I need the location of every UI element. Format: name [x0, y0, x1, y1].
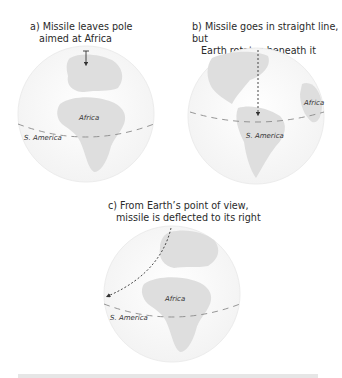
label-s-america-c: S. America	[110, 314, 148, 322]
label-s-america-b: S. America	[246, 132, 284, 140]
cutoff-caption-remnant	[18, 374, 318, 378]
label-africa-c: Africa	[164, 295, 185, 303]
globe-a: Africa S. America	[18, 46, 154, 182]
globe-c: Africa S. America	[104, 226, 240, 362]
label-africa-a: Africa	[78, 114, 99, 122]
label-africa-b: Africa	[303, 99, 324, 107]
coriolis-diagram: Africa S. America Africa S. America Afri…	[0, 0, 342, 378]
label-s-america-a: S. America	[24, 134, 62, 142]
globe-b: Africa S. America	[188, 48, 324, 184]
